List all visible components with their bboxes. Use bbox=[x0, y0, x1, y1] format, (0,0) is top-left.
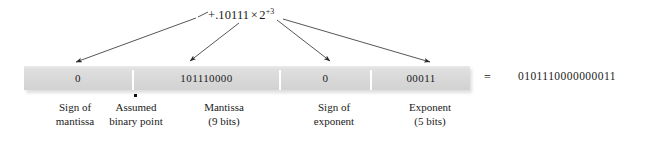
caption-mantissa-line2: (9 bits) bbox=[180, 114, 268, 128]
arrow-to-mantissa bbox=[190, 23, 239, 61]
formula-mantissa: +.10111 bbox=[208, 8, 249, 22]
formula-times-symbol: × bbox=[249, 8, 259, 22]
field-sign-of-exponent: 0 bbox=[281, 66, 372, 90]
formula-leader-left bbox=[198, 12, 208, 17]
field-sign-of-exponent-value: 0 bbox=[323, 72, 329, 84]
caption-exponent-line1: Exponent bbox=[409, 101, 451, 113]
caption-mantissa: Mantissa (9 bits) bbox=[180, 100, 268, 128]
source-value-formula: +.10111×2+3 bbox=[208, 8, 274, 23]
caption-assumed-binary-point-line2: binary point bbox=[90, 114, 182, 128]
float-format-diagram: +.10111×2+3 0 101110000 0 00011 bbox=[0, 0, 655, 142]
assumed-binary-point-marker bbox=[134, 94, 137, 97]
bit-field-bar: 0 101110000 0 00011 bbox=[24, 66, 470, 90]
caption-sign-of-exponent-line2: exponent bbox=[289, 114, 379, 128]
packed-binary-word: 0101110000000011 bbox=[518, 70, 616, 82]
equals-symbol: = bbox=[484, 70, 491, 85]
field-mantissa-value: 101110000 bbox=[180, 72, 232, 84]
arrow-to-sign-of-exponent bbox=[277, 20, 330, 61]
arrow-to-sign-of-mantissa bbox=[76, 18, 196, 62]
field-sign-of-mantissa: 0 bbox=[24, 66, 134, 90]
caption-sign-of-mantissa-line1: Sign of bbox=[59, 101, 91, 113]
field-exponent-value: 00011 bbox=[406, 72, 435, 84]
arrow-to-exponent bbox=[283, 19, 430, 62]
caption-exponent: Exponent (5 bits) bbox=[387, 100, 473, 128]
caption-assumed-binary-point: Assumed binary point bbox=[90, 100, 182, 128]
field-exponent: 00011 bbox=[372, 66, 470, 90]
caption-sign-of-exponent-line1: Sign of bbox=[318, 101, 350, 113]
field-mantissa: 101110000 bbox=[134, 66, 281, 90]
formula-exponent: +3 bbox=[266, 7, 275, 16]
caption-exponent-line2: (5 bits) bbox=[387, 114, 473, 128]
field-sign-of-mantissa-value: 0 bbox=[75, 72, 81, 84]
caption-mantissa-line1: Mantissa bbox=[204, 101, 244, 113]
caption-sign-of-exponent: Sign of exponent bbox=[289, 100, 379, 128]
caption-assumed-binary-point-line1: Assumed bbox=[116, 101, 157, 113]
